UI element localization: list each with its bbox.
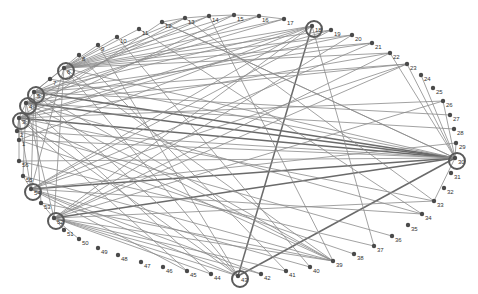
node-label: 10 [120,38,127,44]
edge-55-39 [23,176,333,261]
node-40[interactable]: 40 [308,265,321,274]
node-dot-icon [452,127,456,131]
node-32[interactable]: 32 [442,186,455,195]
node-25[interactable]: 25 [431,86,444,95]
node-label: 56 [22,162,29,168]
node-label: 33 [437,202,444,208]
node-dot-icon [431,86,435,90]
node-45[interactable]: 45 [185,269,198,278]
node-dot-icon [17,138,21,142]
node-54[interactable]: 54 [25,184,41,200]
node-dot-icon [329,28,333,32]
node-label: 28 [457,130,464,136]
node-label: 13 [188,19,195,25]
node-label: 46 [166,268,173,274]
node-39[interactable]: 39 [331,259,344,268]
node-dot-icon [448,113,452,117]
node-22[interactable]: 22 [388,51,401,60]
node-11[interactable]: 11 [137,27,149,36]
node-30[interactable]: 30 [449,153,465,169]
node-label: 52 [57,219,64,225]
node-52[interactable]: 52 [48,213,64,229]
node-dot-icon [350,33,354,37]
node-14[interactable]: 14 [207,14,220,23]
edge-3-39 [19,118,333,261]
node-24[interactable]: 24 [419,73,432,82]
node-dot-icon [183,16,187,20]
node-44[interactable]: 44 [209,272,222,281]
node-dot-icon [388,51,392,55]
node-28[interactable]: 28 [452,127,465,136]
node-dot-icon [442,186,446,190]
node-41[interactable]: 41 [284,269,297,278]
edge-6-20 [64,35,352,68]
node-36[interactable]: 36 [390,234,403,243]
node-label: 34 [425,215,432,221]
node-35[interactable]: 35 [406,223,419,232]
node-label: 29 [459,144,466,150]
node-49[interactable]: 49 [96,246,109,255]
node-dot-icon [24,101,28,105]
node-dot-icon [236,274,240,278]
node-label: 39 [336,262,343,268]
node-dot-icon [406,223,410,227]
node-16[interactable]: 16 [257,14,270,23]
node-dot-icon [259,272,263,276]
node-31[interactable]: 31 [449,171,462,180]
node-17[interactable]: 17 [282,17,295,26]
node-33[interactable]: 33 [432,199,445,208]
edge-30-2 [17,131,455,158]
node-20[interactable]: 20 [350,33,363,42]
node-dot-icon [185,269,189,273]
node-50[interactable]: 50 [77,237,90,246]
node-label: 38 [357,255,364,261]
node-dot-icon [370,41,374,45]
node-23[interactable]: 23 [405,62,418,71]
node-dot-icon [390,234,394,238]
node-label: 44 [214,275,221,281]
node-47[interactable]: 47 [139,260,152,269]
node-15[interactable]: 15 [232,13,245,22]
node-dot-icon [257,14,261,18]
node-dot-icon [284,269,288,273]
node-dot-icon [161,265,165,269]
node-label: 17 [287,20,294,26]
node-37[interactable]: 37 [372,244,385,253]
node-19[interactable]: 19 [329,28,342,37]
node-43[interactable]: 43 [232,271,248,287]
node-dot-icon [21,174,25,178]
node-27[interactable]: 27 [448,113,461,122]
node-dot-icon [96,43,100,47]
node-38[interactable]: 38 [352,252,365,261]
node-dot-icon [96,246,100,250]
node-34[interactable]: 34 [420,212,433,221]
node-dot-icon [449,171,453,175]
node-label: 27 [453,116,460,122]
node-dot-icon [207,14,211,18]
node-46[interactable]: 46 [161,265,174,274]
node-53[interactable]: 53 [39,201,52,210]
node-7[interactable]: 7 [48,77,57,86]
network-graph: 1234567891011121314151617181920212223242… [0,0,478,294]
node-dot-icon [441,99,445,103]
node-label: 55 [26,177,33,183]
node-dot-icon [48,77,52,81]
node-label: 54 [34,190,41,196]
node-42[interactable]: 42 [259,272,272,281]
node-51[interactable]: 51 [62,228,75,237]
node-21[interactable]: 21 [370,41,383,50]
node-dot-icon [17,116,21,120]
node-3[interactable]: 3 [13,113,29,129]
node-dot-icon [139,260,143,264]
node-label: 18 [315,27,322,33]
node-label: 22 [393,54,400,60]
node-label: 12 [165,23,172,29]
edge-18-43 [238,26,312,276]
node-56[interactable]: 56 [17,159,30,168]
node-label: 15 [237,16,244,22]
node-label: 19 [334,31,341,37]
node-label: 14 [212,17,219,23]
node-48[interactable]: 48 [116,253,129,262]
node-label: 43 [241,277,248,283]
node-26[interactable]: 26 [441,99,454,108]
